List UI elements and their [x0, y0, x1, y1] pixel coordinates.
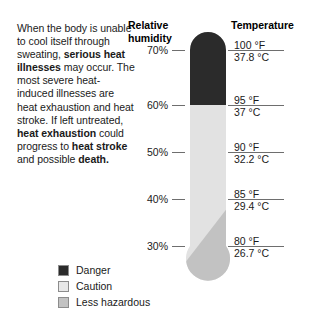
relative-humidity-heading: Relative humidity — [128, 19, 184, 44]
legend-label-danger: Danger — [76, 265, 110, 276]
temperature-celsius-37: 37 °C — [234, 106, 260, 118]
less-hazardous-swatch — [58, 297, 69, 308]
humidity-label-30: 30% — [140, 239, 168, 253]
temperature-fahrenheit-80: 80 °F — [234, 235, 259, 247]
relative-humidity-heading-line2: humidity — [128, 32, 172, 44]
legend-item-caution: Caution — [58, 279, 150, 294]
narrative-segment-5: heat stroke — [72, 140, 127, 152]
narrative-text: When the body is unable to cool itself t… — [17, 22, 135, 166]
legend-item-danger: Danger — [58, 263, 150, 278]
temperature-celsius-26-7: 26.7 °C — [234, 247, 269, 259]
temperature-celsius-37-8: 37.8 °C — [234, 51, 269, 63]
temperature-fahrenheit-85: 85 °F — [234, 188, 259, 200]
temperature-fahrenheit-95: 95 °F — [234, 94, 259, 106]
humidity-label-40: 40% — [140, 192, 168, 206]
legend: Danger Caution Less hazardous — [58, 263, 150, 311]
humidity-tick-30 — [172, 246, 185, 247]
humidity-row-40: 40% — [140, 192, 188, 206]
humidity-row-50: 50% — [140, 145, 188, 159]
humidity-label-60: 60% — [140, 98, 168, 112]
danger-swatch — [58, 265, 69, 276]
thermometer-graphic — [178, 24, 238, 314]
heat-illness-infographic: When the body is unable to cool itself t… — [0, 0, 315, 327]
humidity-row-60: 60% — [140, 98, 188, 112]
humidity-tick-70 — [172, 50, 185, 51]
temperature-fahrenheit-90: 90 °F — [234, 141, 259, 153]
legend-label-less-hazardous: Less hazardous — [76, 297, 150, 308]
caution-swatch — [58, 281, 69, 292]
thermometer-fill — [178, 24, 238, 314]
relative-humidity-heading-line1: Relative — [128, 19, 168, 31]
narrative-segment-7: death. — [78, 153, 109, 165]
humidity-tick-40 — [172, 199, 185, 200]
temperature-celsius-32-2: 32.2 °C — [234, 153, 269, 165]
humidity-label-50: 50% — [140, 145, 168, 159]
danger-band-fill — [178, 24, 238, 105]
humidity-row-70: 70% — [140, 43, 188, 57]
legend-label-caution: Caution — [76, 281, 112, 292]
humidity-label-70: 70% — [140, 43, 168, 57]
narrative-segment-6: and possible — [17, 153, 78, 165]
temperature-fahrenheit-100: 100 °F — [234, 39, 265, 51]
legend-item-less-hazardous: Less hazardous — [58, 295, 150, 310]
temperature-heading: Temperature — [231, 19, 315, 32]
temperature-celsius-29-4: 29.4 °C — [234, 200, 269, 212]
humidity-tick-50 — [172, 152, 185, 153]
humidity-tick-60 — [172, 105, 185, 106]
humidity-row-30: 30% — [140, 239, 188, 253]
narrative-segment-3: heat exhaustion — [17, 127, 96, 139]
